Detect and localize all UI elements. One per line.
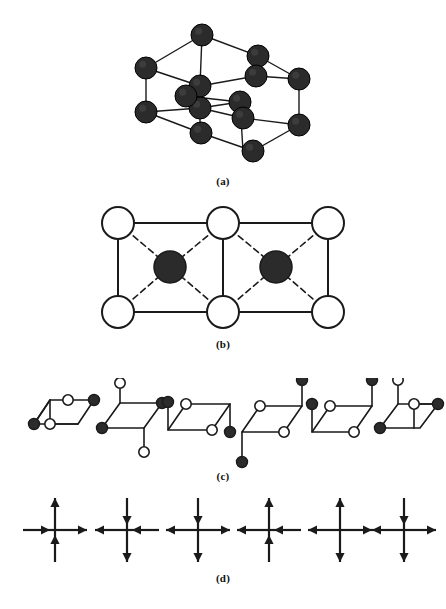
lattice-atom xyxy=(135,57,157,79)
motif-parallelogram xyxy=(380,404,438,428)
atom-sphere xyxy=(245,65,267,87)
motif-open-node xyxy=(279,427,289,437)
lattice-atom xyxy=(242,140,264,162)
arrow-head-up-out xyxy=(50,498,59,507)
panel-d-label: (d) xyxy=(0,572,446,584)
arrow-head-right-in xyxy=(132,525,141,534)
motif-open-node xyxy=(181,399,191,409)
arrow-head-up-out xyxy=(335,498,344,507)
lattice-atom xyxy=(190,122,212,144)
panel-b-label: (b) xyxy=(0,338,446,350)
motif-filled-node xyxy=(29,419,40,430)
motif xyxy=(29,395,100,430)
arrow-head-up-in xyxy=(193,516,202,525)
atom-highlight xyxy=(139,105,146,112)
arrow-head-right-in xyxy=(274,525,283,534)
atom-highlight xyxy=(194,126,201,133)
atom-sphere xyxy=(135,101,157,123)
motif xyxy=(307,378,378,437)
arrow-head-up-in xyxy=(399,516,408,525)
lattice-atom xyxy=(135,101,157,123)
motif-filled-node xyxy=(375,423,386,434)
motif xyxy=(237,378,308,468)
arrow-head-right-out xyxy=(363,525,372,534)
motif-filled-node xyxy=(89,395,100,406)
motif-open-node xyxy=(207,425,217,435)
motif xyxy=(375,378,444,434)
motif-parallelogram xyxy=(312,406,372,432)
motif-open-node xyxy=(63,395,73,405)
unit-cell-open-atom xyxy=(102,296,134,328)
vertex xyxy=(237,498,301,562)
atom-sphere xyxy=(288,68,310,90)
unit-cell-open-atom xyxy=(102,207,134,239)
lattice-edges xyxy=(146,35,299,151)
arrow-head-up-in xyxy=(122,516,131,525)
arrow-head-down-in xyxy=(264,535,273,544)
atom-highlight xyxy=(195,28,202,35)
lattice-atom xyxy=(245,65,267,87)
panel-a-3d-lattice xyxy=(0,8,446,168)
motif-filled-node xyxy=(225,427,236,438)
atom-sphere xyxy=(288,114,310,136)
atom-sphere xyxy=(191,24,213,46)
atom-sphere xyxy=(175,85,197,107)
unit-cell-open-atom xyxy=(312,296,344,328)
motif-open-node xyxy=(349,427,359,437)
atom-highlight xyxy=(233,95,240,102)
unit-cell-filled-atom xyxy=(154,251,186,283)
motif-open-node xyxy=(393,378,403,385)
atom-highlight xyxy=(251,49,258,56)
atom-sphere xyxy=(242,140,264,162)
vertex-group xyxy=(23,498,436,562)
panel-c-motif-row xyxy=(0,378,446,474)
atom-highlight xyxy=(292,72,299,79)
unit-cell-open-atom xyxy=(207,296,239,328)
panel-c-label: (c) xyxy=(0,470,446,482)
arrow-head-left-out xyxy=(308,525,317,534)
motif-parallelogram xyxy=(102,403,162,428)
figure-container: (a) (b) (c) (d) xyxy=(0,0,446,609)
motif-open-node xyxy=(139,447,149,457)
atom-sphere xyxy=(190,122,212,144)
atom-highlight xyxy=(292,118,299,125)
atom-sphere xyxy=(247,45,269,67)
atom-highlight xyxy=(139,61,146,68)
motif-filled-node xyxy=(307,399,318,410)
arrow-head-left-in xyxy=(41,525,50,534)
lattice-atom xyxy=(175,85,197,107)
motif-group xyxy=(29,378,444,468)
unit-cell-open-atom xyxy=(207,207,239,239)
atom-highlight xyxy=(246,144,253,151)
arrow-head-left-out xyxy=(372,525,381,534)
panel-a-label: (a) xyxy=(0,175,446,187)
vertex xyxy=(166,498,230,562)
panel-b-svg xyxy=(0,205,446,330)
motif-parallelogram xyxy=(168,404,230,430)
lattice-atom xyxy=(288,68,310,90)
motif-filled-node xyxy=(297,378,308,386)
motif-open-node xyxy=(325,401,335,411)
motif-open-node xyxy=(115,378,125,388)
atom-highlight xyxy=(179,89,186,96)
arrow-head-down-in xyxy=(50,535,59,544)
arrow-head-down-out xyxy=(122,553,131,562)
motif-open-node xyxy=(409,399,419,409)
motif-filled-node xyxy=(367,378,378,386)
arrow-head-right-out xyxy=(221,525,230,534)
lattice-atom xyxy=(288,114,310,136)
motif-open-node xyxy=(45,419,55,429)
motif-parallelogram xyxy=(242,406,302,432)
lattice-atom xyxy=(247,45,269,67)
motif-filled-node xyxy=(433,399,444,410)
arrow-head-left-out xyxy=(166,525,175,534)
arrow-head-left-out xyxy=(95,525,104,534)
atom-highlight xyxy=(193,79,200,86)
motif xyxy=(163,397,236,438)
motif-open-node xyxy=(255,401,265,411)
motif-filled-node xyxy=(237,457,248,468)
panel-a-svg xyxy=(0,8,446,168)
panel-d-vertex-arrows xyxy=(0,492,446,568)
unit-cell-filled-atom xyxy=(260,251,292,283)
lattice-atoms xyxy=(135,24,310,162)
